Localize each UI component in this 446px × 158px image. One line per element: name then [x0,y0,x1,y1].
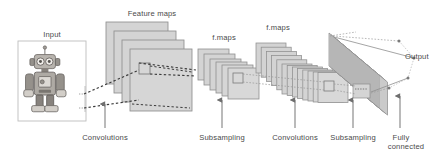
input-label: Input [43,30,61,39]
fmaps-stack-2 [198,49,259,99]
fmaps-3-label: f.maps [266,23,290,32]
output-node [407,77,410,80]
input-image-box [18,41,86,121]
op-label-convolutions-1: Convolutions [82,133,128,142]
op-label-subsampling-1: Subsampling [199,133,245,142]
feature-maps-label: Feature maps [128,9,177,18]
op-label-convolutions-2: Convolutions [272,133,318,142]
output-node [398,40,401,43]
cnn-architecture-figure: Input Feature maps f.maps f.maps Output … [0,0,446,158]
op-label-fully: Fully [393,133,410,142]
op-label-subsampling-2: Subsampling [330,133,376,142]
feature-maps-stack-1 [106,22,192,111]
fmaps-2-label: f.maps [212,33,236,42]
output-label: Output [405,52,429,61]
output-node [388,87,391,90]
op-label-connected: connected [388,142,424,151]
